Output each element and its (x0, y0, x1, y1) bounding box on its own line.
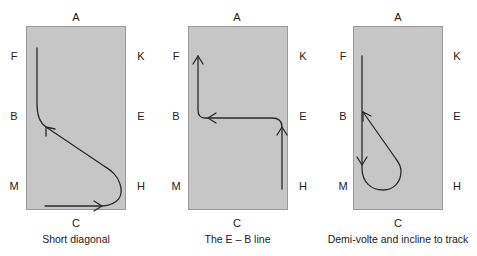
route-path (0, 0, 160, 256)
panel-short-diagonal: A F B M K E H C Short diagonal (0, 0, 160, 256)
route-path (160, 0, 320, 256)
route-path (310, 0, 477, 256)
panel-demi-volte: A F B M K E H C Demi-volte and incline t… (310, 0, 477, 256)
panel-e-b-line: A F B M K E H C The E – B line (160, 0, 320, 256)
